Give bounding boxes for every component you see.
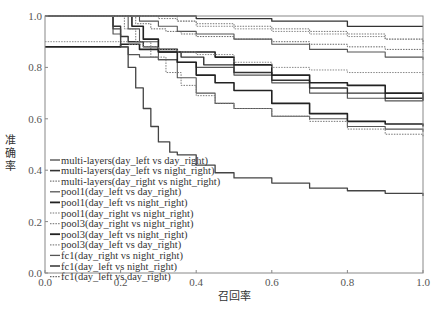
x-tick-label: 0.8 [341, 276, 355, 288]
precision-recall-chart: 0.00.20.40.60.81.0 0.00.20.40.60.81.0 召回… [0, 0, 446, 310]
x-tick-label: 1.0 [416, 276, 430, 288]
svg-text:准: 准 [5, 134, 16, 147]
x-tick-label: 0.6 [265, 276, 279, 288]
y-tick-label: 0.8 [28, 61, 42, 73]
y-tick-label: 1.0 [28, 10, 42, 22]
legend-label: fc1(day_left vs day_right) [61, 271, 171, 283]
legend: multi-layers(day_left vs day_right)multi… [50, 155, 221, 284]
series-line [45, 16, 423, 44]
y-tick-label: 0.4 [28, 164, 42, 176]
y-tick-label: 0.6 [28, 113, 42, 125]
svg-text:确: 确 [5, 147, 16, 160]
svg-text:率: 率 [5, 159, 16, 173]
y-axis-title: 准 确 率 [5, 134, 16, 173]
y-tick-label: 0.2 [28, 216, 42, 228]
x-tick-label: 0.4 [189, 276, 203, 288]
y-tick-label: 0.0 [28, 267, 42, 279]
x-axis-title: 召回率 [218, 289, 251, 303]
